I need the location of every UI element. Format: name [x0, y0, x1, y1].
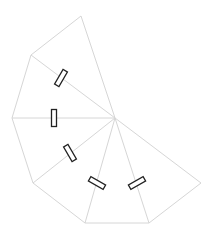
spoke-edge	[81, 16, 115, 118]
outer-edge	[12, 118, 33, 183]
outer-edge	[12, 55, 31, 118]
outer-edge	[33, 183, 85, 223]
hinge-rectangle	[64, 144, 77, 161]
outer-edge	[31, 16, 81, 55]
spoke-edge	[115, 118, 149, 223]
fan-edges	[12, 16, 201, 223]
hinge-rectangle	[55, 69, 68, 86]
hinge-rectangle	[52, 110, 57, 127]
hinge-rectangle	[88, 177, 105, 190]
hinge-markers	[52, 69, 146, 189]
spoke-edge	[115, 118, 201, 183]
spoke-edge	[85, 118, 115, 223]
outer-edge	[149, 183, 201, 223]
spoke-edge	[31, 55, 115, 118]
spoke-edge	[33, 118, 115, 183]
triangle-fan-diagram	[0, 0, 215, 231]
